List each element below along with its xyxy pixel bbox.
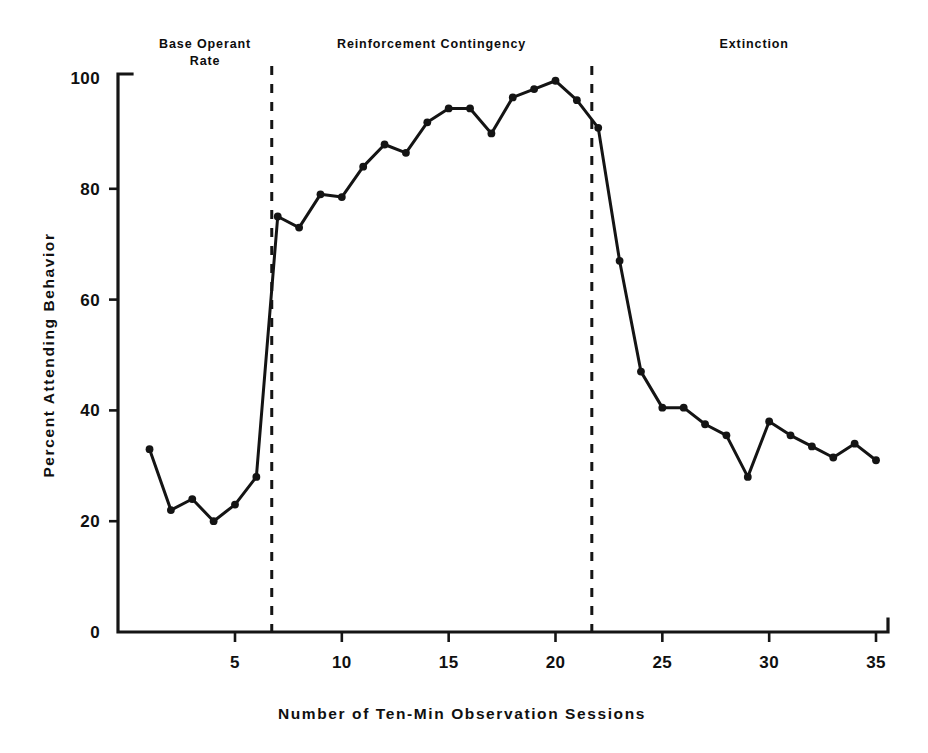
data-point: [787, 431, 795, 439]
data-point: [146, 445, 154, 453]
data-point: [381, 141, 389, 149]
data-point: [829, 454, 837, 462]
phase-dividers: [272, 66, 592, 640]
data-point: [317, 190, 325, 198]
y-axis-ticks: 020406080100: [70, 69, 118, 642]
phase-label-reinforcement-contingency: Reinforcement Contingency: [337, 37, 526, 51]
data-point: [188, 495, 196, 503]
data-point: [488, 130, 496, 138]
y-tick-label-60: 60: [80, 291, 100, 310]
y-tick-label-100: 100: [70, 69, 100, 88]
y-tick-label-20: 20: [80, 512, 100, 531]
data-point: [295, 224, 303, 232]
axes: [118, 74, 888, 632]
data-point: [723, 431, 731, 439]
phase-label-extinction: Extinction: [719, 37, 788, 51]
data-point: [466, 105, 474, 113]
data-point: [680, 404, 688, 412]
data-point: [573, 96, 581, 104]
data-point: [274, 213, 282, 221]
data-point: [338, 193, 346, 201]
x-axis-ticks: 5101520253035: [230, 632, 886, 672]
data-point: [252, 473, 260, 481]
series-line-0: [150, 81, 876, 521]
data-point: [594, 124, 602, 132]
data-point: [872, 456, 880, 464]
x-tick-label-30: 30: [759, 653, 779, 672]
phase-annotations: Base OperantRateReinforcement Contingenc…: [159, 37, 789, 68]
x-tick-label-5: 5: [230, 653, 240, 672]
data-point: [658, 404, 666, 412]
x-tick-label-20: 20: [546, 653, 566, 672]
data-point: [808, 443, 816, 451]
data-point: [423, 118, 431, 126]
y-tick-label-80: 80: [80, 180, 100, 199]
data-point: [167, 506, 175, 514]
x-tick-label-10: 10: [332, 653, 352, 672]
data-point: [744, 473, 752, 481]
data-point: [359, 163, 367, 171]
data-point: [701, 420, 709, 428]
data-point: [210, 517, 218, 525]
data-point: [765, 418, 773, 426]
data-point: [637, 368, 645, 376]
y-tick-label-0: 0: [90, 623, 100, 642]
data-point: [231, 501, 239, 509]
data-point: [402, 149, 410, 157]
phase-label-base-operant-rate: Base OperantRate: [159, 37, 251, 68]
data-point: [509, 93, 517, 101]
data-point: [552, 77, 560, 85]
y-axis-title: Percent Attending Behavior: [40, 232, 57, 477]
x-tick-label-35: 35: [866, 653, 886, 672]
chart-figure: 020406080100 5101520253035 Base OperantR…: [0, 0, 928, 753]
x-tick-label-25: 25: [652, 653, 672, 672]
data-point: [445, 105, 453, 113]
data-point: [851, 440, 859, 448]
data-point: [616, 257, 624, 265]
chart-svg: 020406080100 5101520253035 Base OperantR…: [0, 0, 928, 753]
x-tick-label-15: 15: [439, 653, 459, 672]
x-axis-title: Number of Ten-Min Observation Sessions: [278, 705, 646, 722]
y-tick-label-40: 40: [80, 401, 100, 420]
data-point: [530, 85, 538, 93]
data-series: [146, 77, 880, 525]
